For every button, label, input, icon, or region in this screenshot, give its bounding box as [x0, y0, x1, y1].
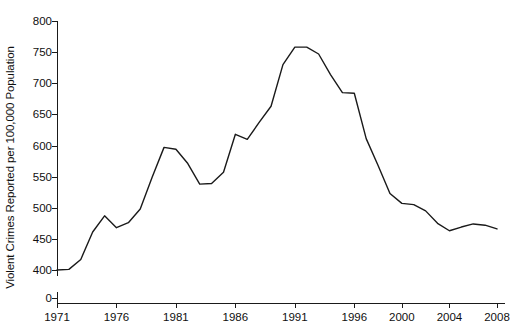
x-tick-label: 1991	[282, 311, 308, 323]
x-tick-label: 2000	[389, 311, 415, 323]
tick-marks-group	[52, 22, 498, 309]
y-tick-label: 650	[14, 108, 52, 120]
y-tick-label: 750	[14, 46, 52, 58]
x-tick-label: 1981	[163, 311, 189, 323]
y-tick-label: 700	[14, 77, 52, 89]
x-tick-label: 2004	[437, 311, 463, 323]
x-tick-label: 1971	[44, 311, 70, 323]
y-tick-label: 400	[14, 264, 52, 276]
y-tick-label: 450	[14, 233, 52, 245]
y-tick-label: 500	[14, 202, 52, 214]
axes-group	[57, 21, 505, 304]
y-tick-label: 800	[14, 15, 52, 27]
y-tick-label: 550	[14, 171, 52, 183]
y-tick-label: 600	[14, 140, 52, 152]
x-tick-label: 1986	[223, 311, 249, 323]
x-tick-label: 1976	[104, 311, 130, 323]
plot-area	[0, 0, 513, 335]
y-tick-label: 0	[14, 292, 52, 304]
data-line-series-1	[57, 47, 497, 270]
x-tick-label: 2008	[484, 311, 510, 323]
violent-crime-line-chart: Violent Crimes Reported per 100,000 Popu…	[0, 0, 513, 335]
x-tick-label: 1996	[342, 311, 368, 323]
